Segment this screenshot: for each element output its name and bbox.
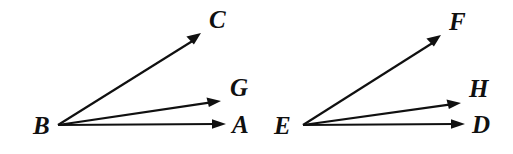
ray-BC-line [58, 41, 193, 125]
ray-BA-arrowhead [212, 119, 226, 129]
diagram-canvas: B A G C E D H F [0, 0, 513, 154]
label-C: C [209, 6, 226, 33]
ray-BG-line [58, 102, 211, 125]
label-B: B [32, 112, 50, 139]
ray-ED-line [303, 124, 455, 125]
ray-EF-line [303, 43, 433, 125]
geometry-figure: B A G C E D H F [0, 0, 513, 154]
ray-BA-line [58, 124, 216, 125]
label-G: G [230, 74, 248, 101]
ray-ED-arrowhead [451, 119, 465, 129]
label-E: E [273, 112, 291, 139]
right-angle-figure: E D H F [273, 8, 490, 139]
ray-EH-line [303, 104, 451, 125]
label-A: A [230, 111, 249, 138]
ray-BG-arrowhead [207, 97, 222, 107]
label-F: F [448, 8, 466, 35]
ray-EH-arrowhead [447, 99, 462, 109]
left-angle-figure: B A G C [32, 6, 249, 139]
label-D: D [471, 111, 490, 138]
label-H: H [468, 75, 490, 102]
